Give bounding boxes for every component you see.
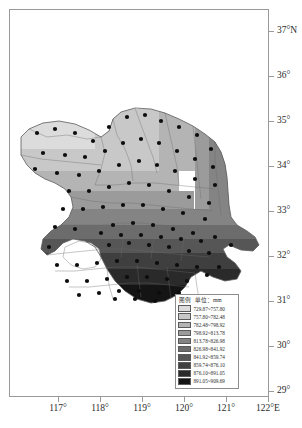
latitude-tick-label: 37°N <box>277 26 297 36</box>
longitude-tick-label: 117° <box>49 404 67 414</box>
legend-range-label: 859.74~876.10 <box>194 362 225 368</box>
legend-entry: 798.92~813.78 <box>178 329 236 337</box>
legend-swatch <box>178 354 191 361</box>
latitude-tick <box>269 121 274 122</box>
latitude-tick-label: 36° <box>277 71 290 81</box>
legend-entry: 891.05~909.69 <box>178 377 236 385</box>
latitude-tick-label: 30° <box>277 341 290 351</box>
latitude-tick-label: 34° <box>277 161 290 171</box>
latitude-tick-label: 31° <box>277 296 290 306</box>
legend-unit: 单位：mm <box>195 297 222 304</box>
longitude-tick <box>184 397 185 402</box>
longitude-tick <box>142 397 143 402</box>
longitude-tick-label: 118° <box>91 404 109 414</box>
latitude-tick-label: 33° <box>277 206 290 216</box>
legend-entry: 813.78~826.98 <box>178 337 236 345</box>
legend-swatch <box>178 362 191 369</box>
legend-swatch <box>178 305 191 312</box>
legend-range-label: 826.98~841.92 <box>194 346 225 352</box>
map-legend: 图例 单位：mm 729.87~757.80757.80~782.48782.4… <box>175 294 239 389</box>
legend-range-label: 876.10~891.05 <box>194 370 225 376</box>
latitude-tick <box>269 346 274 347</box>
legend-entry: 859.74~876.10 <box>178 361 236 369</box>
longitude-tick-label: 121° <box>217 404 235 414</box>
legend-range-label: 757.80~782.48 <box>194 314 225 320</box>
legend-swatch <box>178 370 191 377</box>
latitude-tick <box>269 256 274 257</box>
latitude-tick <box>269 301 274 302</box>
legend-entry: 841.92~859.74 <box>178 353 236 361</box>
legend-entry: 876.10~891.05 <box>178 369 236 377</box>
latitude-tick-label: 32° <box>277 251 290 261</box>
legend-swatch <box>178 346 191 353</box>
longitude-tick <box>100 397 101 402</box>
figure-canvas: 图例 单位：mm 729.87~757.80757.80~782.48782.4… <box>0 0 302 428</box>
legend-swatch <box>178 330 191 337</box>
legend-title: 图例 <box>179 297 191 304</box>
legend-range-label: 782.48~798.92 <box>194 322 225 328</box>
latitude-tick <box>269 76 274 77</box>
legend-entry: 782.48~798.92 <box>178 321 236 329</box>
legend-swatch <box>178 378 191 385</box>
legend-entries: 729.87~757.80757.80~782.48782.48~798.927… <box>178 305 236 386</box>
legend-entry: 757.80~782.48 <box>178 313 236 321</box>
legend-swatch <box>178 313 191 320</box>
legend-range-label: 891.05~909.69 <box>194 378 225 384</box>
longitude-tick <box>226 397 227 402</box>
longitude-tick-label: 119° <box>133 404 151 414</box>
longitude-tick <box>268 397 269 402</box>
longitude-tick <box>58 397 59 402</box>
latitude-tick <box>269 31 274 32</box>
legend-swatch <box>178 322 191 329</box>
latitude-tick <box>269 211 274 212</box>
legend-range-label: 798.92~813.78 <box>194 330 225 336</box>
legend-entry: 729.87~757.80 <box>178 305 236 313</box>
legend-entry: 826.98~841.92 <box>178 345 236 353</box>
legend-header: 图例 单位：mm <box>178 297 236 305</box>
longitude-tick-label: 120° <box>175 404 193 414</box>
legend-range-label: 813.78~826.98 <box>194 338 225 344</box>
latitude-tick <box>269 391 274 392</box>
legend-swatch <box>178 338 191 345</box>
latitude-tick-label: 35° <box>277 116 290 126</box>
longitude-tick-label: 122°E <box>256 404 280 414</box>
latitude-tick-label: 29° <box>277 386 290 396</box>
legend-range-label: 729.87~757.80 <box>194 306 225 312</box>
legend-range-label: 841.92~859.74 <box>194 354 225 360</box>
latitude-tick <box>269 166 274 167</box>
